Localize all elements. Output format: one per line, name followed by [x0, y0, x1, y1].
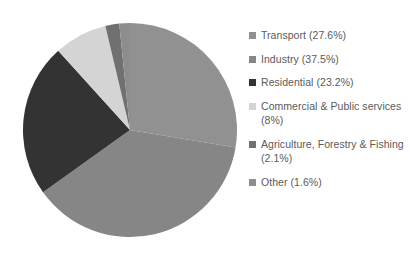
chart-legend: Transport (27.6%)Industry (37.5%)Residen…	[249, 28, 412, 198]
legend-item-label: Residential (23.2%)	[261, 75, 354, 90]
legend-item-label: Transport (27.6%)	[261, 28, 346, 43]
legend-item[interactable]: Other (1.6%)	[249, 175, 412, 190]
legend-item-label: Agriculture, Forestry & Fishing (2.1%)	[261, 137, 412, 166]
legend-item[interactable]: Transport (27.6%)	[249, 28, 412, 43]
legend-swatch-icon	[249, 179, 256, 186]
legend-swatch-icon	[249, 79, 256, 86]
pie-chart-page: Transport (27.6%)Industry (37.5%)Residen…	[0, 0, 412, 261]
legend-swatch-icon	[249, 103, 256, 110]
legend-swatch-icon	[249, 56, 256, 63]
legend-swatch-icon	[249, 32, 256, 39]
pie-slice[interactable]	[130, 23, 237, 147]
legend-item[interactable]: Agriculture, Forestry & Fishing (2.1%)	[249, 137, 412, 166]
legend-item-label: Other (1.6%)	[261, 175, 322, 190]
pie-chart-svg	[0, 0, 252, 261]
pie-chart-plot-area	[0, 0, 252, 261]
legend-item[interactable]: Residential (23.2%)	[249, 75, 412, 90]
legend-swatch-icon	[249, 141, 256, 148]
legend-item-label: Commercial & Public services (8%)	[261, 99, 412, 128]
legend-item-label: Industry (37.5%)	[261, 52, 339, 67]
legend-item[interactable]: Industry (37.5%)	[249, 52, 412, 67]
legend-item[interactable]: Commercial & Public services (8%)	[249, 99, 412, 128]
